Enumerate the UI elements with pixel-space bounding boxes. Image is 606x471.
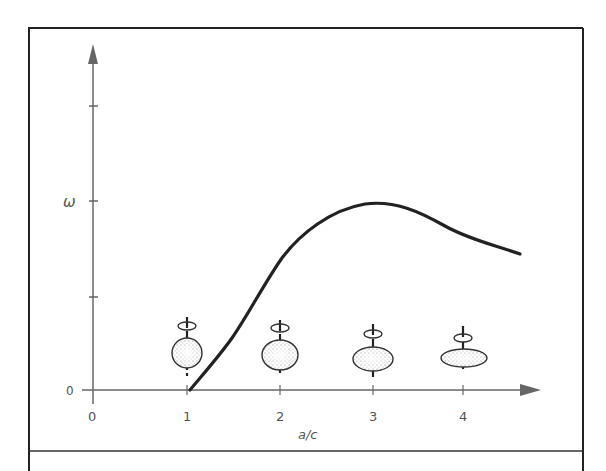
chart-figure: ω 0 0 1 2 3 4 a/c <box>0 0 606 471</box>
y-axis-label: ω <box>63 193 76 211</box>
spinning-body-sphere-icon <box>172 317 202 376</box>
x-axis-label: a/c <box>298 427 318 442</box>
y-axis <box>88 44 98 404</box>
spinning-body-spheroid-4-icon <box>441 326 487 373</box>
x-tick-label-4: 4 <box>459 409 467 424</box>
x-tick-label-1: 1 <box>183 409 191 424</box>
x-axis <box>82 384 541 396</box>
x-tick-label-2: 2 <box>276 409 284 424</box>
figure-frame <box>28 28 583 471</box>
x-tick-label-0: 0 <box>88 409 96 424</box>
spinning-body-spheroid-3-icon <box>353 324 393 377</box>
spinning-body-spheroid-2-icon <box>262 320 298 376</box>
x-axis-arrow-icon <box>520 384 541 396</box>
y-zero-label: 0 <box>66 384 74 398</box>
x-tick-label-3: 3 <box>369 409 377 424</box>
y-axis-arrow-icon <box>88 44 98 64</box>
